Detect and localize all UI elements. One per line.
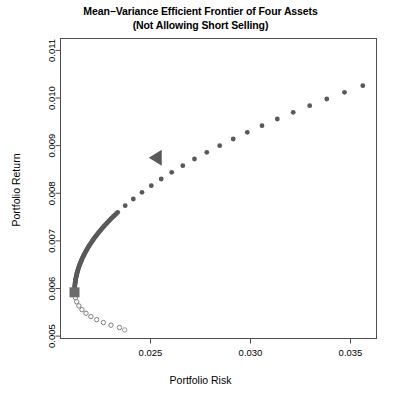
data-point [169,170,174,175]
data-point [75,270,80,275]
frontier-dense-segment [72,211,119,294]
data-point [87,243,92,248]
data-point [159,177,164,182]
data-point [83,250,88,255]
data-point [140,190,145,195]
data-point [291,110,296,115]
y-tick-label: 0.011 [46,39,57,62]
data-point [101,320,105,324]
plot-frame [61,39,377,339]
data-point [231,137,236,142]
data-point [91,237,96,242]
data-point [123,203,128,208]
series-open-circle [123,328,127,332]
data-point [115,210,120,215]
y-tick-label: 0.007 [46,229,57,253]
data-point [80,257,85,262]
data-point [77,263,82,268]
chart-plot-area: 0.0050.0060.0070.0080.0090.0100.011 0.02… [0,0,401,404]
data-point [89,314,93,318]
data-point [245,130,250,135]
y-axis-ticks: 0.0050.0060.0070.0080.0090.0100.011 [46,39,61,348]
x-axis-title: Portfolio Risk [0,374,401,386]
data-point [307,103,312,108]
x-tick-label: 0.025 [139,347,163,358]
data-point [77,304,81,308]
tangency-portfolio-marker [149,150,162,166]
y-tick-label: 0.010 [46,86,57,110]
data-point [217,143,222,148]
x-tick-label: 0.035 [339,347,363,358]
series-filled-circle [72,83,365,294]
data-point [149,183,154,188]
chart-container: Mean−Variance Efficient Frontier of Four… [0,0,401,404]
data-point [324,97,329,102]
data-point [84,311,88,315]
data-point [102,223,107,228]
data-point [360,83,365,88]
data-point [123,328,127,332]
y-tick-label: 0.005 [46,324,57,348]
annotation-markers-group [70,150,162,298]
data-point [108,217,113,222]
y-tick-label: 0.006 [46,277,57,301]
y-axis-title: Portfolio Return [10,90,22,290]
data-point [204,150,209,155]
series-open-circle [73,295,122,329]
data-point [73,277,78,282]
data-point [192,157,197,162]
data-point [109,323,113,327]
data-point [117,325,121,329]
data-series-group [72,83,365,332]
y-tick-label: 0.008 [46,181,57,205]
data-point [180,163,185,168]
data-point [260,123,265,128]
data-point [95,317,99,321]
data-point [342,90,347,95]
y-tick-label: 0.009 [46,134,57,158]
data-point [96,230,101,235]
data-point [275,117,280,122]
minimum-variance-portfolio-marker [70,287,80,297]
x-tick-label: 0.030 [239,347,263,358]
data-point [131,197,136,202]
data-point [80,307,84,311]
x-axis-ticks: 0.0250.0300.035 [139,339,363,358]
